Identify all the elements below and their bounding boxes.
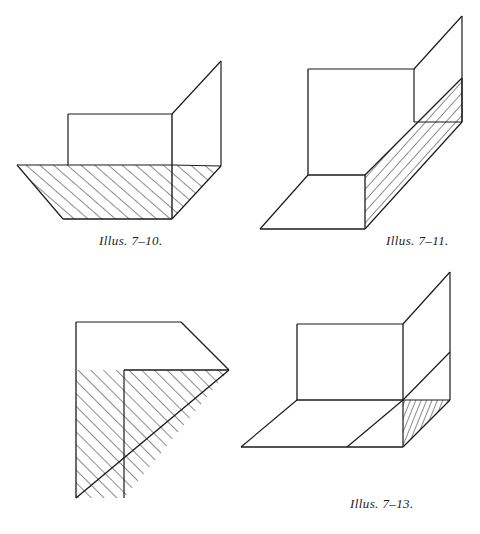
figure-7-12 xyxy=(70,322,236,504)
figure-7-12-top-right-diagonal xyxy=(181,322,229,370)
figure-7-11-floor-left-edge xyxy=(260,175,308,229)
figure-7-13-floor-inner-diagonal xyxy=(347,400,403,447)
figure-7-13 xyxy=(241,272,456,452)
caption-illus-7-10: Illus. 7–10. xyxy=(99,233,163,249)
figure-7-13-wing-inner-diagonal xyxy=(403,352,450,400)
figure-7-10-panel-top-edge xyxy=(172,61,221,114)
figure-7-10-hatched-floor xyxy=(10,158,240,228)
figure-7-10 xyxy=(10,61,240,228)
caption-illus-7-13: Illus. 7–13. xyxy=(350,496,414,512)
caption-illus-7-11: Illus. 7–11. xyxy=(386,233,449,249)
figure-7-11 xyxy=(260,16,470,236)
figure-7-13-wing-top-diagonal xyxy=(403,272,450,324)
figure-7-13-floor-left-diagonal xyxy=(241,400,297,447)
illustration-plate: Illus. 7–10. Illus. 7–11. Illus. 7–13. xyxy=(0,0,480,534)
figure-7-11-wing-top-diagonal xyxy=(414,16,462,69)
drawing-canvas xyxy=(0,0,480,534)
